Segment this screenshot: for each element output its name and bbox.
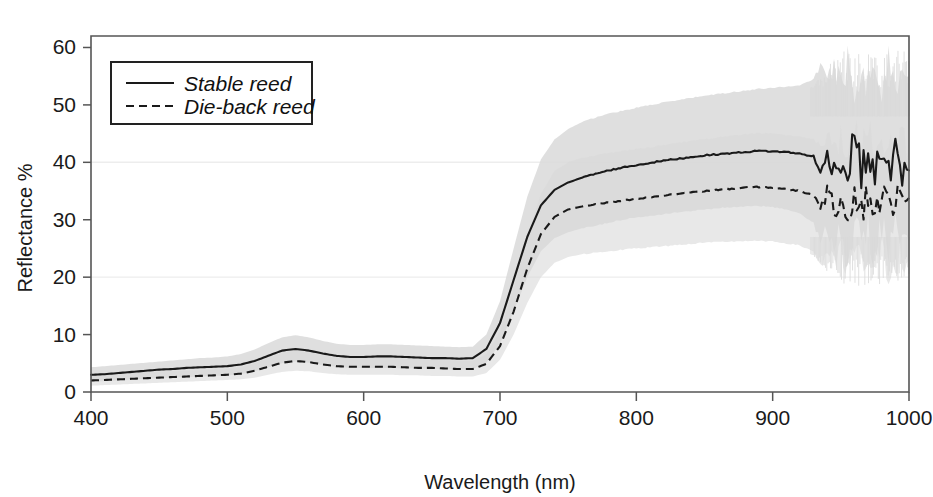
- x-tick-label-800: 800: [619, 406, 654, 429]
- chart-canvas: 01020304050604005006007008009001000 Wave…: [0, 0, 933, 497]
- y-tick-label-0: 0: [64, 380, 76, 403]
- y-tick-label-20: 20: [53, 265, 76, 288]
- y-axis-title: Reflectance %: [14, 163, 36, 292]
- x-tick-label-1000: 1000: [886, 406, 933, 429]
- y-tick-label-60: 60: [53, 35, 76, 58]
- legend-label-stable-reed: Stable reed: [184, 72, 293, 95]
- spectral-reflectance-figure: 01020304050604005006007008009001000 Wave…: [0, 0, 933, 497]
- x-tick-label-600: 600: [346, 406, 381, 429]
- x-tick-label-700: 700: [482, 406, 517, 429]
- x-tick-label-400: 400: [73, 406, 108, 429]
- legend-label-die-back-reed: Die-back reed: [184, 95, 316, 118]
- y-tick-label-10: 10: [53, 323, 76, 346]
- x-tick-label-900: 900: [755, 406, 790, 429]
- y-tick-label-50: 50: [53, 93, 76, 116]
- x-axis-title: Wavelength (nm): [424, 471, 576, 493]
- chart-legend: Stable reed Die-back reed: [111, 62, 316, 124]
- x-tick-label-500: 500: [210, 406, 245, 429]
- y-tick-label-30: 30: [53, 208, 76, 231]
- y-tick-label-40: 40: [53, 150, 76, 173]
